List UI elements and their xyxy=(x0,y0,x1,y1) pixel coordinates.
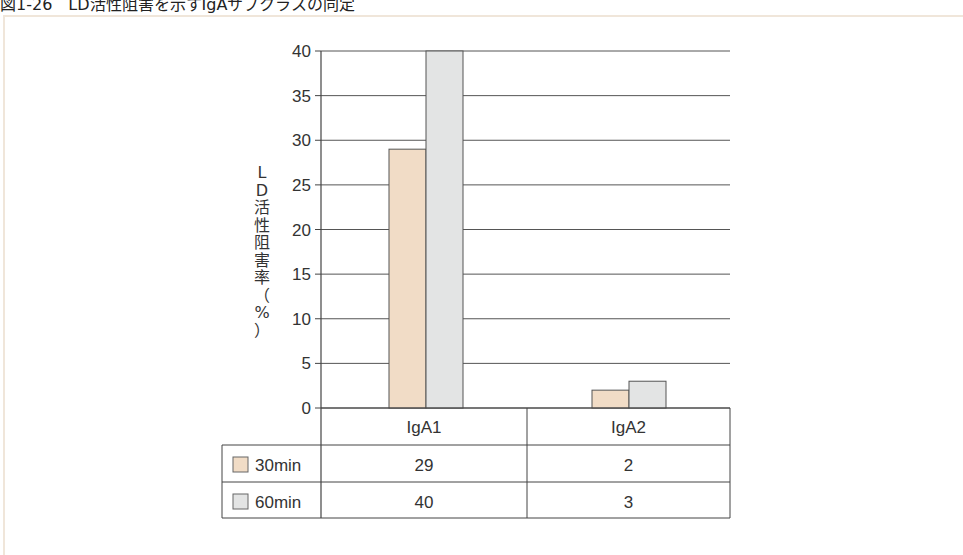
y-axis-label-char: 阻 xyxy=(254,233,270,252)
y-tick-label: 30 xyxy=(292,131,311,150)
table-cell-value: 2 xyxy=(624,456,633,475)
data-table: IgA1IgA230min29260min403 xyxy=(222,408,730,518)
y-axis-label-char: L xyxy=(258,163,267,182)
y-axis-label-char: ） xyxy=(254,321,270,340)
gridlines xyxy=(321,51,730,408)
bar-iga1-60min xyxy=(426,51,463,408)
y-tick-label: 5 xyxy=(302,354,311,373)
y-axis-label-char: （ xyxy=(254,286,270,305)
legend-label: 60min xyxy=(255,493,301,512)
legend-swatch-30min xyxy=(233,457,248,472)
y-tick-label: 25 xyxy=(292,176,311,195)
y-axis-label: LD活性阻害率（%） xyxy=(254,163,270,340)
y-axis-ticks: 0510152025303540 xyxy=(292,42,321,418)
y-tick-label: 40 xyxy=(292,42,311,61)
y-axis-label-char: 害 xyxy=(254,251,270,270)
bar-iga2-30min xyxy=(592,390,629,408)
table-cell-value: 29 xyxy=(415,456,434,475)
bar-iga2-60min xyxy=(629,381,666,408)
y-tick-label: 20 xyxy=(292,221,311,240)
bar-iga1-30min xyxy=(389,149,426,408)
table-cell-value: 40 xyxy=(415,493,434,512)
table-cell-value: 3 xyxy=(624,493,633,512)
legend-label: 30min xyxy=(255,456,301,475)
category-label: IgA1 xyxy=(407,418,442,437)
category-label: IgA2 xyxy=(611,418,646,437)
y-axis-label-char: 活 xyxy=(254,198,270,217)
y-axis-label-char: 率 xyxy=(254,268,270,287)
y-axis-label-char: % xyxy=(254,303,269,322)
y-tick-label: 0 xyxy=(302,399,311,418)
y-axis-label-char: D xyxy=(256,181,268,200)
legend-swatch-60min xyxy=(233,494,248,509)
y-tick-label: 15 xyxy=(292,265,311,284)
y-tick-label: 35 xyxy=(292,87,311,106)
y-axis-label-char: 性 xyxy=(254,216,270,235)
y-tick-label: 10 xyxy=(292,310,311,329)
